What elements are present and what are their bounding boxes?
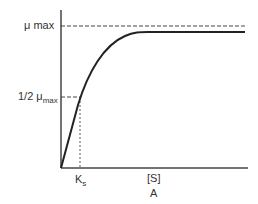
mu-max-label: μ max [24, 20, 54, 31]
half-mu-subscript: max [43, 96, 58, 105]
ks-label: Ks [75, 174, 86, 188]
panel-label: A [150, 188, 157, 199]
half-mu-max-label: 1/2 μmax [18, 91, 58, 105]
ks-subscript: s [82, 179, 86, 188]
x-axis-label: [S] [147, 173, 160, 184]
growth-curve [61, 32, 245, 168]
half-mu-text: 1/2 μ [18, 90, 43, 102]
mu-max-text: μ max [24, 19, 54, 31]
